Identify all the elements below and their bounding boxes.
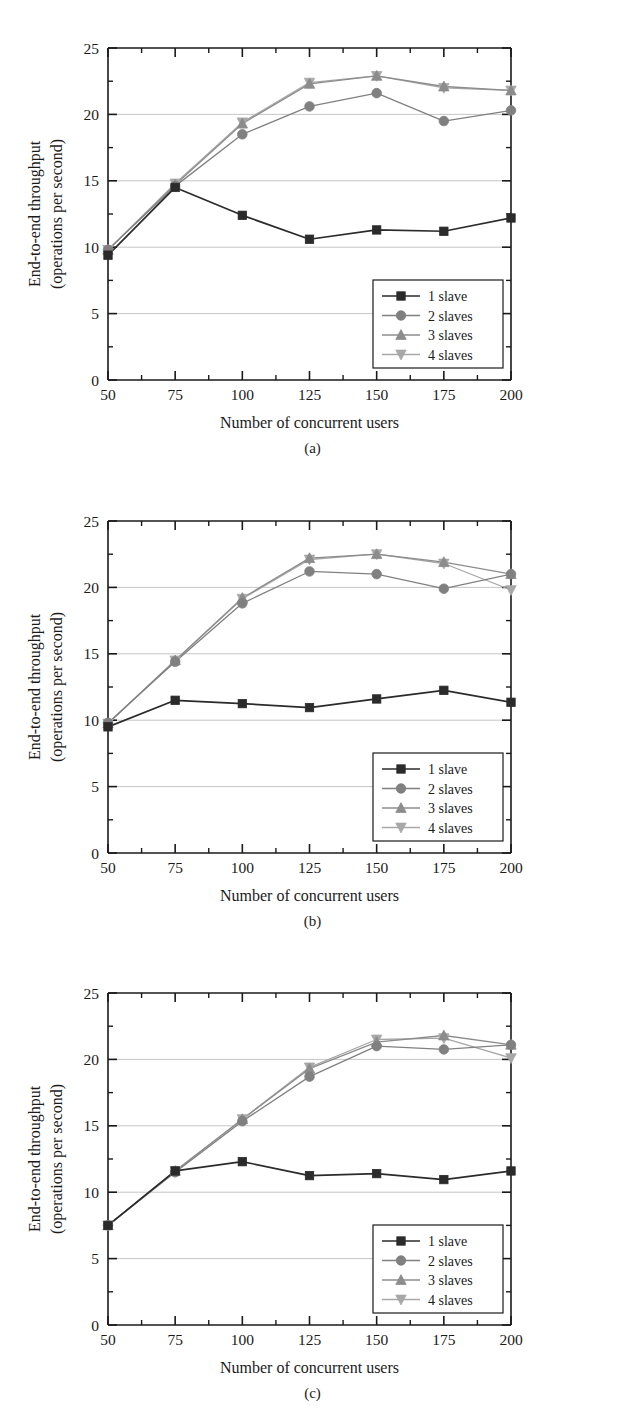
data-point-marker-circle bbox=[238, 130, 248, 140]
y-tick-label: 20 bbox=[84, 106, 100, 123]
data-point-marker-circle bbox=[238, 1117, 248, 1127]
series-line-2-slaves bbox=[108, 93, 511, 250]
y-tick-label: 10 bbox=[84, 1184, 100, 1201]
series-line-1-slave bbox=[108, 187, 511, 255]
y-tick-label: 25 bbox=[84, 40, 100, 57]
x-axis-title: Number of concurrent users bbox=[220, 1359, 399, 1376]
data-point-marker-square bbox=[372, 226, 380, 234]
x-tick-label: 50 bbox=[100, 1331, 116, 1348]
figure-page: 05101520255075100125150175200End-to-end … bbox=[0, 0, 625, 1418]
data-point-marker-square bbox=[507, 1167, 515, 1175]
y-tick-label: 20 bbox=[84, 578, 100, 595]
data-point-marker-square bbox=[305, 1172, 313, 1180]
data-point-marker-circle bbox=[372, 569, 382, 579]
data-point-marker-circle bbox=[396, 311, 406, 321]
legend-label-0: 1 slave bbox=[428, 1234, 467, 1249]
data-point-marker-square bbox=[104, 722, 112, 730]
x-tick-label: 125 bbox=[298, 859, 322, 876]
data-point-marker-circle bbox=[506, 569, 516, 579]
data-point-marker-circle bbox=[372, 88, 382, 98]
data-point-marker-square bbox=[372, 1170, 380, 1178]
x-tick-label: 175 bbox=[432, 859, 456, 876]
y-tick-label: 10 bbox=[84, 711, 100, 728]
y-tick-label: 0 bbox=[91, 372, 99, 389]
data-point-marker-square bbox=[171, 183, 179, 191]
x-tick-label: 50 bbox=[100, 859, 116, 876]
x-tick-label: 175 bbox=[432, 386, 456, 403]
data-point-marker-circle bbox=[305, 102, 315, 112]
y-tick-label: 25 bbox=[84, 985, 100, 1002]
x-tick-label: 100 bbox=[231, 859, 255, 876]
y-axis-title-line2: (operations per second) bbox=[48, 612, 66, 762]
chart-a: 05101520255075100125150175200End-to-end … bbox=[0, 0, 625, 440]
data-point-marker-square bbox=[238, 699, 246, 707]
x-tick-label: 175 bbox=[432, 1331, 456, 1348]
x-axis-title: Number of concurrent users bbox=[220, 887, 399, 904]
panel-b-caption: (b) bbox=[0, 913, 625, 930]
x-tick-label: 125 bbox=[298, 386, 322, 403]
data-point-marker-circle bbox=[439, 116, 449, 126]
data-point-marker-circle bbox=[396, 783, 406, 793]
x-tick-label: 75 bbox=[167, 1331, 183, 1348]
panel-c-caption: (c) bbox=[0, 1385, 625, 1402]
x-tick-label: 125 bbox=[298, 1331, 322, 1348]
data-point-marker-square bbox=[507, 214, 515, 222]
data-point-marker-square bbox=[171, 1167, 179, 1175]
data-point-marker-square bbox=[397, 764, 405, 772]
y-tick-label: 5 bbox=[91, 305, 99, 322]
y-tick-label: 25 bbox=[84, 512, 100, 529]
data-point-marker-square bbox=[397, 1237, 405, 1245]
y-tick-label: 0 bbox=[91, 1317, 99, 1334]
x-tick-label: 200 bbox=[499, 859, 523, 876]
x-tick-label: 50 bbox=[100, 386, 116, 403]
chart-c: 05101520255075100125150175200End-to-end … bbox=[0, 945, 625, 1385]
panel-a: 05101520255075100125150175200End-to-end … bbox=[0, 0, 625, 473]
y-tick-label: 5 bbox=[91, 1250, 99, 1267]
x-tick-label: 75 bbox=[167, 386, 183, 403]
y-tick-label: 15 bbox=[84, 172, 100, 189]
data-point-marker-circle bbox=[439, 584, 449, 594]
data-point-marker-circle bbox=[439, 1045, 449, 1055]
data-point-marker-square bbox=[440, 227, 448, 235]
data-point-marker-square bbox=[104, 251, 112, 259]
data-point-marker-square bbox=[171, 696, 179, 704]
y-tick-label: 0 bbox=[91, 844, 99, 861]
data-point-marker-square bbox=[305, 703, 313, 711]
legend-label-1: 2 slaves bbox=[428, 309, 473, 324]
data-point-marker-circle bbox=[305, 566, 315, 576]
x-tick-label: 150 bbox=[365, 859, 389, 876]
legend-label-2: 3 slaves bbox=[428, 328, 473, 343]
data-point-marker-circle bbox=[305, 1072, 315, 1082]
x-tick-label: 200 bbox=[499, 386, 523, 403]
legend-label-0: 1 slave bbox=[428, 762, 467, 777]
legend-label-0: 1 slave bbox=[428, 289, 467, 304]
data-point-marker-square bbox=[238, 211, 246, 219]
panel-a-caption: (a) bbox=[0, 440, 625, 457]
y-tick-label: 5 bbox=[91, 778, 99, 795]
data-point-marker-circle bbox=[506, 106, 516, 116]
data-point-marker-circle bbox=[372, 1042, 382, 1052]
data-point-marker-circle bbox=[396, 1256, 406, 1266]
x-tick-label: 150 bbox=[365, 1331, 389, 1348]
y-axis-title-line1: End-to-end throughput bbox=[26, 140, 44, 287]
y-axis-title-line2: (operations per second) bbox=[48, 139, 66, 289]
data-point-marker-triangle-down bbox=[506, 585, 516, 595]
data-point-marker-circle bbox=[238, 598, 248, 608]
x-tick-label: 150 bbox=[365, 386, 389, 403]
data-point-marker-square bbox=[372, 694, 380, 702]
x-tick-label: 100 bbox=[231, 386, 255, 403]
y-tick-label: 20 bbox=[84, 1051, 100, 1068]
legend-label-3: 4 slaves bbox=[428, 348, 473, 363]
chart-b: 05101520255075100125150175200End-to-end … bbox=[0, 473, 625, 913]
data-point-marker-circle bbox=[170, 657, 180, 667]
x-axis-title: Number of concurrent users bbox=[220, 414, 399, 431]
y-tick-label: 15 bbox=[84, 645, 100, 662]
panel-c: 05101520255075100125150175200End-to-end … bbox=[0, 945, 625, 1418]
data-point-marker-square bbox=[238, 1158, 246, 1166]
y-axis-title-line1: End-to-end throughput bbox=[26, 613, 44, 760]
y-axis-title-line1: End-to-end throughput bbox=[26, 1086, 44, 1233]
y-tick-label: 10 bbox=[84, 239, 100, 256]
data-point-marker-square bbox=[305, 235, 313, 243]
y-tick-label: 15 bbox=[84, 1117, 100, 1134]
data-point-marker-square bbox=[104, 1221, 112, 1229]
